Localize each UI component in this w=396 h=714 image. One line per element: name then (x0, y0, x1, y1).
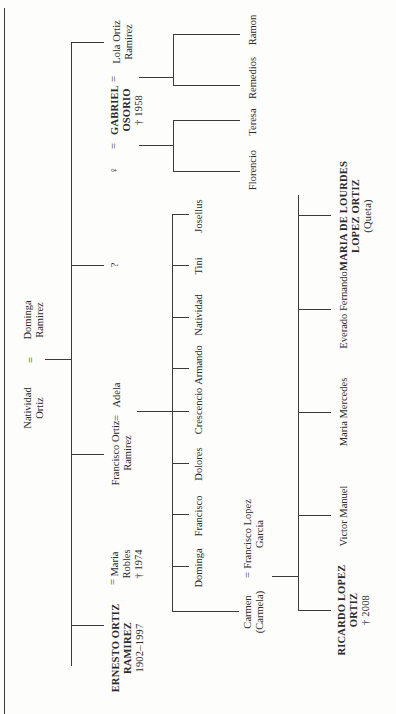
branch-natividad-jr (172, 317, 189, 318)
gen1-descent-line (45, 359, 72, 360)
osorio-group2-descent (139, 77, 173, 78)
branch-dolores (172, 463, 189, 464)
branch-dominga (172, 566, 189, 567)
branch-everado-fernando (298, 309, 331, 310)
branch-ricardo (298, 610, 331, 611)
branch-maria-mercedes (298, 412, 331, 413)
francisco-children-trunk (172, 214, 173, 612)
osorio-group1-trunk (173, 120, 174, 172)
branch-maria-de-lourdes (298, 215, 331, 216)
branch-francisco (71, 454, 104, 455)
branch-victor-manuel (298, 515, 331, 516)
branch-remedios (173, 85, 240, 86)
branch-josellus (172, 214, 189, 215)
osorio-group1-descent (139, 145, 173, 146)
gen2-trunk-line (71, 42, 72, 666)
branch-florencio (173, 171, 240, 172)
francisco-descent-line (137, 411, 173, 412)
branch-ernesto (71, 625, 104, 626)
page-border-line (4, 8, 5, 714)
branch-ramon (173, 34, 240, 35)
carmen-children-trunk (298, 195, 299, 611)
branch-carmen (172, 611, 239, 612)
branch-unknown (71, 265, 104, 266)
branch-crescencio (172, 411, 189, 412)
branch-tini (172, 265, 189, 266)
branch-francisco-jr (172, 514, 189, 515)
branch-armando (172, 368, 189, 369)
branch-teresa (173, 120, 240, 121)
family-tree-diagram: NatividadOrtiz = DomingaRamirez ERNESTO … (0, 0, 396, 714)
branch-lola (71, 42, 104, 43)
osorio-group2-trunk (173, 34, 174, 86)
carmen-descent-line (272, 576, 299, 577)
